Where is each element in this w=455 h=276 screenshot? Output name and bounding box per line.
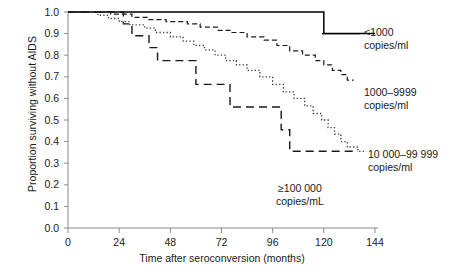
kaplan-meier-chart: 0.00.10.20.30.40.50.60.70.80.91.0 024487… [0, 0, 455, 276]
series-line-3 [68, 12, 366, 151]
x-axis-title: Time after seroconversion (months) [68, 252, 376, 264]
series-annotation-ge-100000: ≥100 000 copies/mL [276, 182, 324, 208]
annotation-line-2: copies/ml [364, 39, 408, 52]
y-axis-ticks [64, 12, 68, 228]
y-axis-title: Proportion surviving without AIDS [26, 9, 38, 219]
series-annotation-lt-1000: <1000 copies/ml [364, 26, 408, 52]
annotation-line-2: copies/ml [364, 99, 417, 112]
series-paths [68, 12, 375, 151]
x-tick-label: 24 [104, 237, 134, 248]
x-tick-label: 72 [207, 237, 237, 248]
x-axis-ticks [68, 228, 375, 233]
axis-lines [68, 12, 378, 228]
series-annotation-10000-99999: 10 000–99 999 copies/ml [368, 148, 438, 174]
series-annotation-1000-9999: 1000–9999 copies/ml [364, 86, 417, 112]
x-tick-label: 0 [53, 237, 83, 248]
annotation-line-1: 1000–9999 [364, 86, 417, 98]
y-tick-label: 0.0 [33, 223, 59, 234]
annotation-line-2: copies/mL [276, 195, 324, 208]
series-line-4 [68, 12, 358, 151]
annotation-line-1: <1000 [364, 26, 394, 38]
x-tick-label: 120 [309, 237, 339, 248]
annotation-line-1: 10 000–99 999 [368, 148, 438, 160]
annotation-line-2: copies/ml [368, 161, 438, 174]
x-tick-label: 96 [258, 237, 288, 248]
x-tick-label: 144 [360, 237, 390, 248]
annotation-line-1: ≥100 000 [278, 182, 322, 194]
series-line-2 [68, 12, 354, 80]
x-tick-label: 48 [155, 237, 185, 248]
